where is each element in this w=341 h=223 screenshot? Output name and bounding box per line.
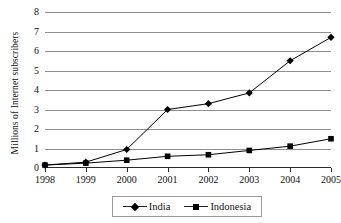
x-axis-tickmark: [208, 168, 209, 172]
data-point-indonesia-2003: [246, 148, 252, 154]
y-axis-tick-label: 3: [34, 105, 39, 115]
line-chart: Millions of Internet subscribers 0123456…: [0, 0, 341, 223]
y-axis-title: Millions of Internet subscribers: [8, 3, 22, 183]
data-point-indonesia-2001: [165, 154, 171, 160]
y-axis-tick-label: 5: [34, 66, 39, 76]
data-point-india-2005: [327, 34, 334, 41]
x-axis-tick-label: 2004: [280, 173, 300, 186]
x-axis-tick-label: 2003: [239, 173, 259, 186]
y-axis-tick-label: 7: [34, 27, 39, 37]
y-axis-tick-label: 8: [34, 7, 39, 17]
y-axis-tick-label: 4: [34, 85, 39, 95]
x-axis-labels: 19981999200020012002200320042005: [45, 173, 331, 187]
x-axis-tick-label: 1999: [76, 173, 96, 186]
x-axis-tickmark: [45, 168, 46, 172]
y-axis-tick-label: 1: [34, 144, 39, 154]
y-axis-tick-label: 0: [34, 163, 39, 173]
x-axis-tick-label: 2001: [158, 173, 178, 186]
x-axis-tickmark: [86, 168, 87, 172]
chart-legend: IndiaIndonesia: [112, 196, 262, 217]
legend-label: India: [149, 201, 171, 213]
x-axis-tickmark: [249, 168, 250, 172]
data-point-indonesia-1998: [42, 162, 48, 168]
data-point-indonesia-2004: [287, 143, 293, 149]
x-axis-tick-label: 2000: [117, 173, 137, 186]
x-axis-tick-label: 2002: [198, 173, 218, 186]
legend-label: Indonesia: [210, 201, 251, 213]
y-axis-tick-label: 2: [34, 124, 39, 134]
x-axis-tickmark: [127, 168, 128, 172]
series-layer: [45, 12, 331, 168]
data-point-indonesia-2005: [328, 136, 334, 142]
x-axis-tick-label: 2005: [321, 173, 341, 186]
legend-entry-indonesia[interactable]: Indonesia: [184, 201, 251, 213]
data-point-indonesia-2000: [124, 157, 130, 163]
data-point-indonesia-2002: [206, 152, 212, 158]
x-axis-tickmark: [168, 168, 169, 172]
data-point-indonesia-1999: [83, 160, 89, 166]
y-axis-tick-label: 6: [34, 46, 39, 56]
legend-marker-square-icon: [184, 202, 208, 212]
legend-entry-india[interactable]: India: [123, 201, 171, 213]
data-point-india-2002: [205, 100, 212, 107]
legend-marker-diamond-icon: [123, 202, 147, 212]
x-axis-tickmark: [331, 168, 332, 172]
x-axis-tickmarks: [45, 168, 331, 172]
x-axis-tick-label: 1998: [35, 173, 55, 186]
x-axis-tickmark: [290, 168, 291, 172]
